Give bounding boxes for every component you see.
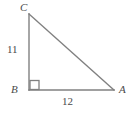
triangle-side-ca-hypotenuse (29, 14, 114, 90)
vertex-label-b: B (11, 84, 18, 95)
vertex-label-a: A (119, 84, 126, 95)
vertex-label-c: C (20, 2, 27, 13)
side-length-label-horizontal-leg: 12 (62, 96, 73, 107)
right-angle-square-icon (30, 81, 39, 90)
geometry-figure: C B A 11 12 (0, 0, 130, 115)
side-length-label-vertical-leg: 11 (7, 44, 18, 55)
